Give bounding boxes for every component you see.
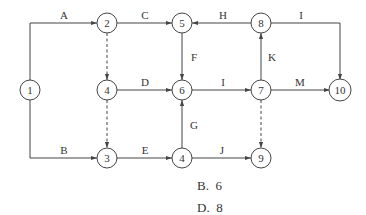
- edge-label-E: E: [142, 144, 149, 156]
- edge-label-A: A: [60, 9, 68, 21]
- node-3: 3: [97, 148, 117, 168]
- edge-I-top: [271, 23, 340, 80]
- edge-label-F: F: [191, 51, 197, 63]
- node-6: 6: [172, 80, 192, 100]
- edge-label-H: H: [219, 9, 227, 21]
- svg-text:10: 10: [335, 84, 347, 96]
- svg-text:4: 4: [179, 152, 185, 164]
- svg-text:1: 1: [27, 84, 33, 96]
- edge-label-C: C: [141, 9, 148, 21]
- edge-label-D: D: [141, 76, 149, 88]
- network-diagram: A B C D E F G H I I J K: [0, 0, 366, 215]
- node-10: 10: [329, 79, 351, 101]
- node-2: 2: [97, 13, 117, 33]
- node-4-middle: 4: [97, 80, 117, 100]
- edge-label-J: J: [220, 144, 225, 156]
- svg-text:6: 6: [179, 84, 185, 96]
- node-4-bottom: 4: [172, 148, 192, 168]
- edge-label-I-mid: I: [221, 76, 225, 88]
- svg-text:9: 9: [258, 152, 264, 164]
- node-9: 9: [251, 148, 271, 168]
- answer-option-d: D. 8: [197, 200, 223, 215]
- edge-label-B: B: [60, 144, 67, 156]
- svg-text:2: 2: [104, 17, 110, 29]
- edge-label-M: M: [295, 76, 305, 88]
- edge-label-K: K: [268, 51, 276, 63]
- svg-text:3: 3: [104, 152, 110, 164]
- edge-label-G: G: [190, 119, 198, 131]
- node-1: 1: [20, 80, 40, 100]
- node-7: 7: [251, 80, 271, 100]
- node-5: 5: [172, 13, 192, 33]
- svg-text:4: 4: [104, 84, 110, 96]
- answer-option-b: B. 6: [197, 178, 222, 194]
- node-8: 8: [251, 13, 271, 33]
- edge-A: [30, 23, 97, 80]
- svg-text:5: 5: [179, 17, 185, 29]
- svg-text:8: 8: [258, 17, 264, 29]
- svg-text:7: 7: [258, 84, 264, 96]
- edge-label-I-top: I: [299, 9, 303, 21]
